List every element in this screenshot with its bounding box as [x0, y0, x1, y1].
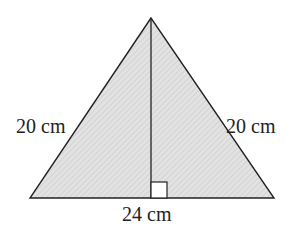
base-label: 24 cm — [122, 203, 172, 225]
left-side-label: 20 cm — [16, 115, 66, 137]
right-angle-marker — [151, 182, 167, 198]
triangle — [30, 18, 274, 198]
right-side-label: 20 cm — [226, 115, 276, 137]
triangle-diagram: 20 cm 20 cm 24 cm — [0, 0, 300, 235]
